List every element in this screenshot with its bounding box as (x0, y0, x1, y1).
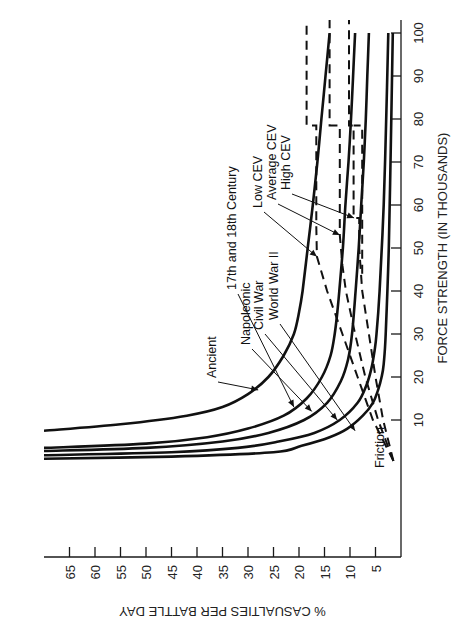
y-tick-label: 35 (216, 565, 231, 579)
x-tick-label: 10 (411, 413, 426, 427)
y-tick-label: 45 (165, 565, 180, 579)
annotation-low-cev: Low CEV (251, 155, 265, 208)
annotation-ancient: Ancient (205, 336, 219, 378)
x-tick-label: 90 (411, 69, 426, 83)
y-tick-label: 5 (369, 565, 384, 572)
y-tick-label: 20 (292, 565, 307, 579)
y-tick-label: 55 (114, 565, 129, 579)
annotation-17th-and-18th-century: 17th and 18th Century (225, 166, 239, 290)
series-napoleonic (44, 33, 369, 451)
y-tick-label: 60 (88, 565, 103, 579)
x-tick-label: 20 (411, 370, 426, 384)
series-ancient (44, 33, 330, 431)
annotation-friction: Friction (373, 427, 387, 468)
series-civil-war (44, 33, 388, 455)
y-tick-label: 30 (241, 565, 256, 579)
y-tick-label: 25 (267, 565, 282, 579)
annotations-layer: Ancient17th and 18th CenturyNapoleonicCi… (205, 124, 387, 468)
annotation-civil-war: Civil War (252, 280, 266, 330)
x-tick-label: 60 (411, 198, 426, 212)
x-tick-label: 80 (411, 112, 426, 126)
x-tick-label: 70 (411, 155, 426, 169)
x-tick-label: 40 (411, 284, 426, 298)
annotation-average-cev: Average CEV (265, 124, 279, 200)
x-axis-title: FORCE STRENGTH (IN THOUSANDS) (435, 133, 450, 364)
annotation-napoleonic: Napoleonic (239, 282, 253, 345)
x-tick-label: 50 (411, 241, 426, 255)
chart-canvas: 1020304050607080901005101520253035404550… (0, 0, 466, 631)
y-tick-label: 50 (139, 565, 154, 579)
series-layer (44, 20, 393, 461)
y-tick-label: 40 (190, 565, 205, 579)
x-tick-label: 30 (411, 327, 426, 341)
y-tick-label: 15 (318, 565, 333, 579)
y-axis-title: % CASUALTIES PER BATTLE DAY (119, 604, 326, 619)
annotation-world-war-ii: World War II (267, 251, 281, 320)
y-tick-label: 65 (63, 565, 78, 579)
x-tick-label: 100 (411, 22, 426, 44)
y-tick-label: 10 (343, 565, 358, 579)
series-world-war-ii (44, 33, 393, 459)
annotation-high-cev: High CEV (279, 134, 293, 190)
series-low-cev-friction (307, 20, 394, 461)
arrow-line (265, 334, 337, 420)
